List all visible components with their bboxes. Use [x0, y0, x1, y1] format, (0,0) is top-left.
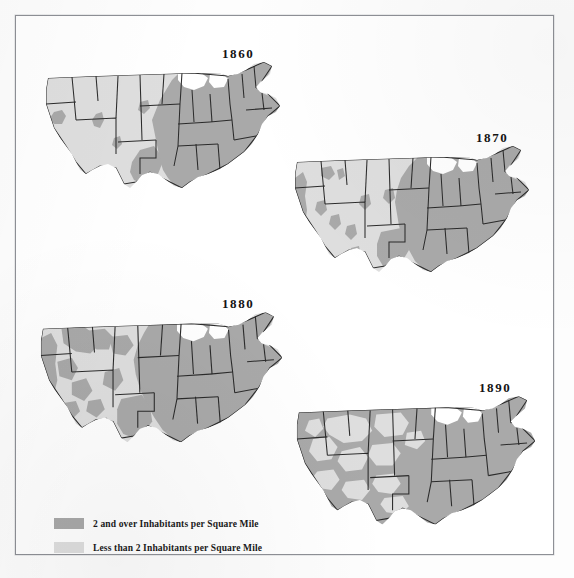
map-panel-1860: 1860 — [32, 30, 302, 215]
legend-label-sparse: Less than 2 Inhabitants per Square Mile — [93, 543, 262, 553]
legend-swatch-sparse-icon — [54, 542, 84, 553]
legend-item-dense: 2 and over Inhabitants per Square Mile — [54, 515, 294, 532]
map-panel-1870: 1870 — [281, 116, 551, 296]
us-map-1880 — [24, 304, 299, 469]
map-panel-1890: 1890 — [281, 364, 556, 549]
scanned-page: 1860 — [0, 0, 574, 578]
us-map-1870 — [281, 138, 543, 298]
map-legend: 2 and over Inhabitants per Square Mile L… — [54, 515, 294, 563]
legend-item-sparse: Less than 2 Inhabitants per Square Mile — [54, 539, 294, 556]
map-panel-1880: 1880 — [24, 278, 304, 468]
us-map-1860 — [32, 54, 294, 214]
figure-frame: 1860 — [15, 15, 554, 555]
us-map-1890 — [281, 388, 551, 551]
legend-label-dense: 2 and over Inhabitants per Square Mile — [93, 519, 259, 529]
legend-swatch-dense-icon — [54, 518, 84, 529]
